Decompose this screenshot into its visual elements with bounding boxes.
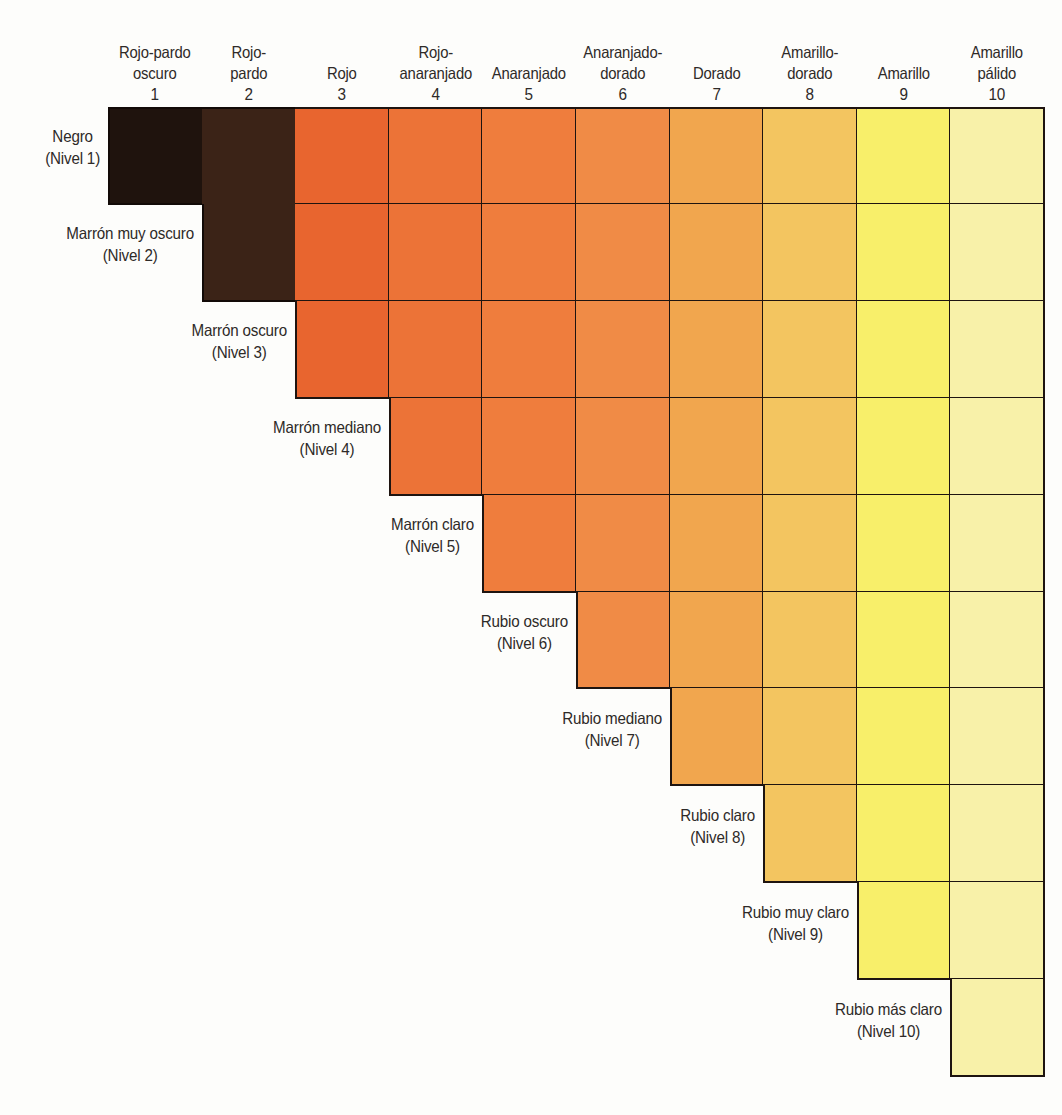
- color-cell-row5-col6: [576, 495, 671, 593]
- color-cell-row2-col7: [670, 204, 764, 302]
- column-header-line2: pálido: [978, 63, 1017, 84]
- row-label-name: Rubio mediano: [562, 707, 662, 729]
- column-header-line2: dorado: [600, 63, 645, 84]
- color-cell-row6-col10: [950, 592, 1045, 689]
- color-cell-row6-col6: [576, 592, 671, 689]
- color-cell-row3-col5: [482, 301, 577, 399]
- row-label-level-2: Marrón muy oscuro(Nivel 2): [0, 222, 194, 266]
- hair-level-pigment-chart: Rojo-pardooscuro1Rojo-pardo2Rojo3Rojo-an…: [0, 0, 1062, 1115]
- color-cell-row2-col4: [389, 204, 483, 302]
- row-label-name: Negro: [45, 125, 100, 147]
- color-cell-row2-col10: [950, 204, 1045, 302]
- color-cell-row1-col8: [763, 107, 858, 205]
- row-label-label: (Nivel 2): [66, 244, 194, 266]
- color-cell-row4-col4: [389, 398, 483, 496]
- column-header-line1: Amarillo-: [781, 42, 838, 63]
- column-header-number: 10: [989, 84, 1006, 105]
- color-cell-row6-col7: [670, 592, 764, 689]
- row-label-label: (Nivel 9): [742, 923, 849, 945]
- color-cell-row3-col4: [389, 301, 483, 399]
- color-cell-row1-col7: [670, 107, 764, 205]
- color-cell-row1-col5: [482, 107, 577, 205]
- row-label-name: Rubio muy claro: [742, 901, 849, 923]
- row-label-label: (Nivel 3): [192, 341, 287, 363]
- row-label-name: Marrón mediano: [273, 416, 381, 438]
- color-cell-row7-col7: [670, 688, 764, 786]
- column-header-10: Amarillopálido10: [937, 4, 1057, 105]
- row-label-level-8: Rubio claro(Nivel 8): [553, 804, 755, 848]
- column-header-line2: dorado: [787, 63, 832, 84]
- column-header-line1: Amarillo: [971, 42, 1023, 63]
- color-cell-row5-col7: [670, 495, 764, 593]
- color-cell-row2-col5: [482, 204, 577, 302]
- color-cell-row9-col10: [950, 882, 1045, 980]
- color-cell-row8-col8: [763, 785, 858, 883]
- row-label-label: (Nivel 6): [481, 632, 568, 654]
- color-cell-row2-col9: [857, 204, 951, 302]
- column-header-number: 1: [151, 84, 159, 105]
- color-cell-row1-col2: [202, 107, 296, 205]
- row-label-label: (Nivel 5): [391, 535, 474, 557]
- column-header-number: 3: [338, 84, 346, 105]
- color-cell-row10-col10: [950, 979, 1045, 1077]
- color-cell-row3-col8: [763, 301, 858, 399]
- column-header-line1: Rojo-: [418, 42, 453, 63]
- row-label-level-10: Rubio más claro(Nivel 10): [740, 998, 942, 1042]
- column-header-number: 4: [431, 84, 439, 105]
- color-cell-row8-col9: [857, 785, 951, 883]
- color-cell-row3-col10: [950, 301, 1045, 399]
- color-cell-row5-col5: [482, 495, 577, 593]
- row-label-label: (Nivel 10): [835, 1020, 942, 1042]
- color-cell-row4-col8: [763, 398, 858, 496]
- color-cell-row2-col6: [576, 204, 671, 302]
- column-header-line1: Rojo-: [231, 42, 266, 63]
- column-header-line2: pardo: [230, 63, 267, 84]
- color-cell-row7-col8: [763, 688, 858, 786]
- color-cell-row6-col9: [857, 592, 951, 689]
- row-label-level-4: Marrón mediano(Nivel 4): [178, 416, 380, 460]
- color-cell-row1-col6: [576, 107, 671, 205]
- row-label-name: Marrón oscuro: [192, 319, 287, 341]
- color-cell-row4-col6: [576, 398, 671, 496]
- color-cell-row3-col6: [576, 301, 671, 399]
- color-cell-row3-col9: [857, 301, 951, 399]
- row-label-level-6: Rubio oscuro(Nivel 6): [366, 610, 568, 654]
- column-header-line1: Rojo-pardo: [119, 42, 191, 63]
- color-cell-row7-col10: [950, 688, 1045, 786]
- color-cell-row4-col7: [670, 398, 764, 496]
- color-cell-row4-col9: [857, 398, 951, 496]
- color-cell-row2-col3: [295, 204, 390, 302]
- column-header-number: 8: [806, 84, 814, 105]
- row-label-name: Rubio oscuro: [481, 610, 568, 632]
- row-label-level-1: Negro(Nivel 1): [0, 125, 100, 169]
- color-cell-row1-col10: [950, 107, 1045, 205]
- row-label-label: (Nivel 4): [273, 438, 381, 460]
- column-header-line2: Anaranjado: [492, 63, 566, 84]
- column-header-number: 7: [712, 84, 720, 105]
- color-cell-row1-col3: [295, 107, 390, 205]
- column-header-line2: Amarillo: [877, 63, 929, 84]
- column-header-line2: Dorado: [693, 63, 741, 84]
- column-header-line2: Rojo: [327, 63, 357, 84]
- row-label-name: Rubio claro: [680, 804, 755, 826]
- column-header-number: 6: [619, 84, 627, 105]
- color-cell-row8-col10: [950, 785, 1045, 883]
- row-label-level-3: Marrón oscuro(Nivel 3): [85, 319, 287, 363]
- row-label-name: Marrón muy oscuro: [66, 222, 194, 244]
- color-cell-row3-col3: [295, 301, 390, 399]
- row-label-level-9: Rubio muy claro(Nivel 9): [646, 901, 848, 945]
- color-cell-row4-col5: [482, 398, 577, 496]
- column-header-line2: anaranjado: [399, 63, 472, 84]
- color-cell-row1-col4: [389, 107, 483, 205]
- color-cell-row2-col8: [763, 204, 858, 302]
- color-cell-row5-col8: [763, 495, 858, 593]
- color-cell-row5-col9: [857, 495, 951, 593]
- color-cell-row9-col9: [857, 882, 951, 980]
- color-cell-row1-col1: [108, 107, 203, 205]
- row-label-label: (Nivel 8): [680, 826, 755, 848]
- column-header-line1: Anaranjado-: [583, 42, 662, 63]
- color-cell-row5-col10: [950, 495, 1045, 593]
- color-cell-row7-col9: [857, 688, 951, 786]
- row-label-name: Marrón claro: [391, 513, 474, 535]
- color-cell-row1-col9: [857, 107, 951, 205]
